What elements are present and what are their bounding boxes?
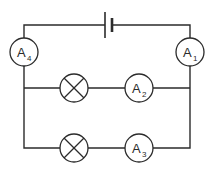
lamp-2-icon: [60, 134, 88, 162]
svg-text:A: A: [132, 141, 141, 156]
lamp-1-icon: [60, 74, 88, 102]
left-wire: [24, 66, 60, 148]
svg-text:4: 4: [27, 54, 32, 63]
top-wire: [24, 25, 190, 38]
svg-text:A: A: [17, 45, 26, 60]
ammeter-a3-icon: A 3: [125, 134, 153, 162]
circuit-diagram: A 4 A 1 A 2 A 3: [0, 0, 219, 172]
ammeter-a2-icon: A 2: [125, 74, 153, 102]
svg-text:3: 3: [142, 150, 147, 159]
ammeter-a4-icon: A 4: [10, 38, 38, 66]
cell-icon: [105, 12, 112, 38]
ammeter-a1-icon: A 1: [176, 38, 204, 66]
svg-text:A: A: [183, 45, 192, 60]
svg-text:2: 2: [142, 90, 147, 99]
right-wire: [153, 66, 190, 148]
svg-text:A: A: [132, 81, 141, 96]
svg-text:1: 1: [193, 54, 198, 63]
